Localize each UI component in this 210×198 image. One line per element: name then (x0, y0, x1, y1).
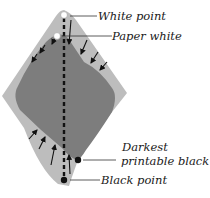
darkest-printable-black-marker (75, 157, 81, 163)
darkest-printable-black-label-line1: Darkest (122, 141, 168, 153)
white-point-marker (61, 12, 68, 19)
black-point-marker (61, 177, 67, 183)
gamut-diagram: White point Paper white Darkest printabl… (0, 0, 210, 198)
black-point-label: Black point (101, 174, 167, 186)
paper-white-label: Paper white (112, 30, 182, 42)
paper-white-marker (54, 33, 61, 40)
darkest-printable-black-label-line2: printable black (121, 155, 209, 167)
white-point-label: White point (98, 10, 166, 22)
